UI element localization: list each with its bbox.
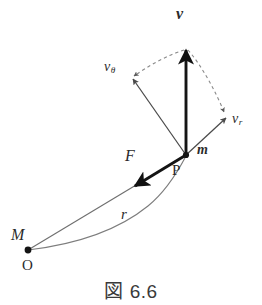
label-origin: O	[22, 258, 33, 273]
label-velocity-tangential-subscript: θ	[111, 65, 116, 75]
label-velocity-tangential-base: v	[104, 59, 110, 74]
label-central-mass: M	[11, 227, 24, 243]
label-velocity-radial-base: v	[232, 111, 238, 126]
label-force: F	[125, 148, 135, 164]
label-velocity-radial-subscript: r	[239, 117, 243, 127]
label-velocity-tangential: vθ	[104, 60, 115, 75]
label-point-p: P	[172, 163, 180, 178]
label-mass: m	[197, 143, 208, 157]
label-radius: r	[121, 207, 127, 222]
vector-v-theta	[133, 79, 186, 155]
dashed-construction-tangential	[134, 50, 184, 76]
label-velocity: v	[176, 6, 183, 22]
figure-6-6: v vθ vr F P m r M O 図 6.6	[0, 0, 262, 305]
figure-caption: 図 6.6	[0, 276, 262, 303]
point-o-marker	[25, 247, 32, 254]
label-velocity-radial: vr	[232, 112, 242, 127]
dashed-construction-radial	[188, 50, 224, 112]
point-p-marker	[183, 152, 189, 158]
